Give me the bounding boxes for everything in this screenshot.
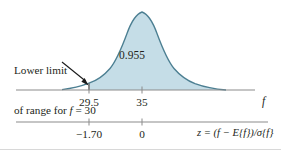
normal-distribution-figure: Lower limit of range for f = 30 0.955 29… [0,0,281,154]
shaded-area-region [89,12,226,90]
f-axis-tick-label-29-5: 29.5 [79,96,99,109]
annotation-line-2-prefix: of range for [14,104,70,116]
z-formula-rhs: = (f − E{f})/σ{f} [201,127,273,138]
z-axis-tick-label-neg-1-70: −1.70 [76,128,102,141]
z-axis-formula: z = (f − E{f})/σ{f} [197,127,274,140]
z-axis-tick-label-0: 0 [139,128,145,141]
annotation-line-1: Lower limit [14,64,96,77]
shaded-area-value-label: 0.955 [119,49,145,63]
f-axis-tick-label-35: 35 [136,96,147,109]
f-axis-label: f [262,95,265,109]
